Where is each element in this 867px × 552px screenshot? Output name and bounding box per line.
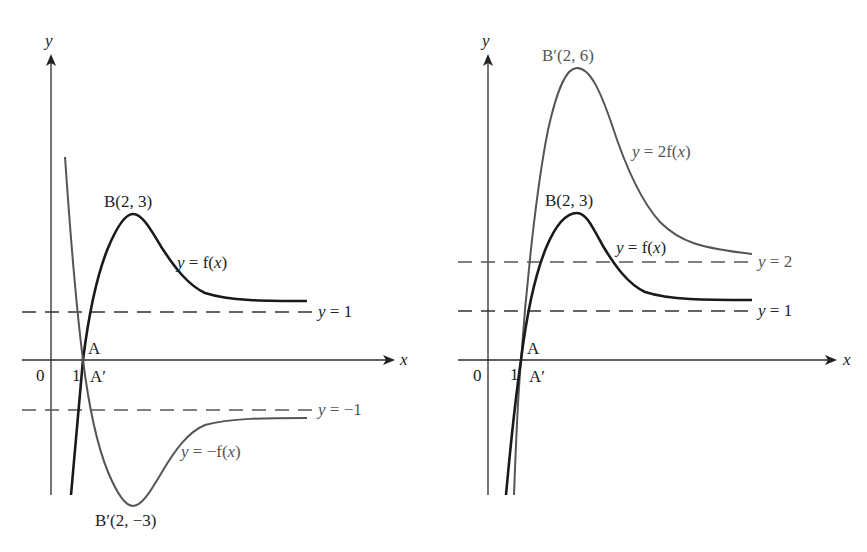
right-point-a-label: A [527,339,540,358]
diagram-canvas: y x 0 1 A A′ B(2, 3) B′(2, −3) y = f(x) … [0,0,867,552]
left-panel: y x 0 1 A A′ B(2, 3) B′(2, −3) y = f(x) … [22,31,408,530]
right-y-axis-label: y [480,31,490,50]
left-y-axis-label: y [43,31,53,50]
left-tick-1-label: 1 [72,366,81,385]
left-curve-neg-f-label: y = −f(x) [179,442,241,461]
left-origin-label: 0 [36,366,45,385]
right-point-b-prime-label: B′(2, 6) [542,46,594,65]
right-asymptote-y2-label: y = 2 [756,252,792,271]
right-x-axis-label: x [842,350,851,369]
left-point-a-prime-label: A′ [90,367,106,386]
right-asymptote-y1-label: y = 1 [756,301,792,320]
left-asymptote-yneg1-label: y = −1 [316,400,362,419]
left-curve-f-label: y = f(x) [175,253,227,272]
right-curve-2f [514,68,752,495]
right-curve-f-label: y = f(x) [614,238,666,257]
right-curve-2f-label: y = 2f(x) [630,142,691,161]
left-asymptote-y1-label: y = 1 [316,302,352,321]
right-tick-1-label: 1 [510,365,519,384]
right-panel: y x 0 1 A A′ B(2, 3) B′(2, 6) y = 2f(x) … [458,31,851,495]
left-x-axis-label: x [399,350,408,369]
right-point-a-prime-label: A′ [529,367,545,386]
right-point-b-label: B(2, 3) [545,191,593,210]
left-point-a-label: A [88,339,101,358]
right-origin-label: 0 [473,366,482,385]
left-point-b-prime-label: B′(2, −3) [95,511,156,530]
left-point-b-label: B(2, 3) [104,192,152,211]
